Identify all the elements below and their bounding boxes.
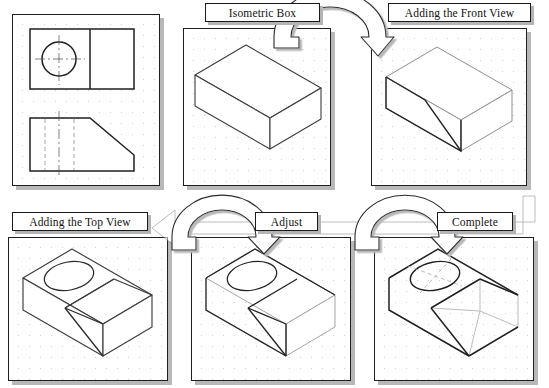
top-view-drawing — [9, 238, 168, 381]
panel-complete — [374, 237, 534, 381]
label-complete: Complete — [437, 212, 513, 231]
front-view-drawing — [372, 29, 527, 186]
panel-adjust — [191, 237, 351, 381]
label-isometric-box: Isometric Box — [205, 3, 320, 22]
label-adding-the-top-view: Adding the Top View — [12, 212, 148, 231]
label-text: Adding the Front View — [405, 7, 514, 19]
label-adding-the-front-view: Adding the Front View — [388, 3, 531, 22]
figure-canvas: Isometric Box Adding the Front View — [0, 0, 549, 388]
panel-adding-the-top-view — [8, 237, 168, 381]
isometric-box-drawing — [184, 29, 331, 186]
label-text: Adjust — [271, 216, 303, 228]
label-text: Adding the Top View — [29, 216, 131, 228]
adjust-drawing — [192, 238, 351, 381]
panel-adding-the-front-view — [371, 28, 527, 186]
label-text: Isometric Box — [229, 7, 296, 19]
label-adjust: Adjust — [255, 212, 318, 231]
panel-isometric-box — [183, 28, 331, 186]
orthographic-drawing — [13, 15, 160, 186]
complete-drawing — [375, 238, 534, 381]
panel-orthographic-views — [12, 14, 160, 186]
label-text: Complete — [452, 216, 498, 228]
